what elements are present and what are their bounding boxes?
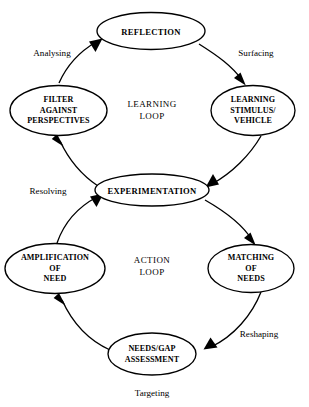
node-reflection[interactable]: REFLECTION (97, 13, 205, 50)
edge-experimentation-to-matching (205, 200, 256, 246)
edge-path-amplification-experimentation (57, 197, 97, 243)
edge-path-stimulus-experimentation (212, 136, 261, 184)
node-reflection-label: REFLECTION (121, 27, 181, 37)
edge-label-resolving: Resolving (30, 186, 67, 196)
action-loop-caption-line1: ACTION (134, 255, 170, 265)
edge-path-resolving (60, 141, 98, 186)
node-matching-of-needs-line2: OF (245, 264, 256, 273)
arrowhead-reshaping (204, 338, 218, 350)
node-amplification-of-need-line2: OF (49, 264, 60, 273)
node-experimentation-label: EXPERIMENTATION (108, 186, 197, 196)
edge-label-targeting: Targeting (135, 388, 170, 398)
edge-path-surfacing (199, 44, 242, 80)
edge-needs-gap-to-amplification (54, 293, 110, 350)
edge-label-analysing: Analysing (33, 48, 71, 58)
edge-label-reshaping: Reshaping (240, 329, 279, 339)
arrowhead-surfacing (234, 73, 246, 86)
node-needs-gap-assessment-line2: ASSESSMENT (125, 355, 180, 364)
edge-path-experimentation-matching (205, 200, 252, 240)
edge-experimentation-to-filter (52, 134, 98, 186)
node-learning-stimulus-vehicle-line2: STIMULUS/ (230, 106, 276, 115)
node-amplification-of-need-line1: AMPLIFICATION (21, 253, 89, 262)
learning-loop-caption: LEARNING LOOP (127, 99, 176, 121)
node-filter-against-perspectives-line3: PERSPECTIVES (27, 116, 90, 125)
node-needs-gap-assessment-shape (108, 333, 196, 375)
node-experimentation[interactable]: EXPERIMENTATION (95, 174, 209, 206)
arrowhead-targeting (54, 293, 66, 306)
node-matching-of-needs-line1: MATCHING (228, 253, 275, 262)
node-filter-against-perspectives-line2: AGAINST (40, 106, 78, 115)
node-amplification-of-need[interactable]: AMPLIFICATION OF NEED (5, 244, 105, 294)
edge-label-surfacing: Surfacing (238, 48, 274, 58)
learning-loop-caption-line2: LOOP (139, 111, 164, 121)
node-learning-stimulus-vehicle-line1: LEARNING (231, 95, 276, 104)
node-needs-gap-assessment[interactable]: NEEDS/GAP ASSESSMENT (108, 333, 196, 375)
edge-path-targeting (62, 300, 110, 350)
node-needs-gap-assessment-line1: NEEDS/GAP (128, 344, 175, 353)
edge-matching-to-needs-gap (204, 292, 262, 350)
double-loop-diagram: REFLECTION LEARNING STIMULUS/ VEHICLE FI… (0, 0, 309, 407)
node-amplification-of-need-line3: NEED (44, 274, 67, 283)
action-loop-caption: ACTION LOOP (134, 255, 170, 277)
node-filter-against-perspectives-line1: FILTER (44, 95, 74, 104)
learning-loop-caption-line1: LEARNING (127, 99, 176, 109)
node-matching-of-needs-line3: NEEDS (237, 274, 265, 283)
action-loop-caption-line2: LOOP (139, 267, 164, 277)
node-matching-of-needs[interactable]: MATCHING OF NEEDS (208, 245, 294, 293)
arrowhead-experimentation-matching (244, 233, 256, 246)
node-filter-against-perspectives[interactable]: FILTER AGAINST PERSPECTIVES (10, 86, 107, 136)
edge-amplification-to-experimentation (57, 194, 104, 244)
node-learning-stimulus-vehicle[interactable]: LEARNING STIMULUS/ VEHICLE (211, 86, 295, 136)
node-learning-stimulus-vehicle-line3: VEHICLE (234, 116, 272, 125)
diagram-canvas: REFLECTION LEARNING STIMULUS/ VEHICLE FI… (0, 0, 309, 407)
edge-learning-stimulus-to-experimentation (206, 136, 262, 188)
edge-filter-to-reflection (59, 39, 103, 84)
